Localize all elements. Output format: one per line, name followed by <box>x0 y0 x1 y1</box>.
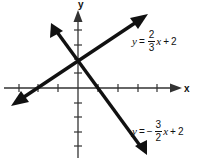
equation2-constant: 2 <box>178 127 184 137</box>
equation-label-line1: y = 2 3 x + 2 <box>132 30 177 53</box>
y-axis <box>74 10 83 158</box>
equation-label-line2: y = − 3 2 x + 2 <box>132 120 183 143</box>
x-axis-label: x <box>184 84 190 94</box>
equation2-operator: + <box>168 127 178 137</box>
equation1-fraction: 2 3 <box>148 30 156 53</box>
equation1-numerator: 2 <box>148 30 156 41</box>
equation1-equals: = <box>137 37 147 47</box>
equation1-denominator: 3 <box>148 42 156 53</box>
equation2-equals: = <box>137 127 147 137</box>
equation1-operator: + <box>161 37 171 47</box>
equation1-constant: 2 <box>171 37 177 47</box>
equation2-fraction: 3 2 <box>155 120 163 143</box>
graph-figure: y x y = 2 3 x + 2 y = − 3 2 x + 2 <box>0 0 207 162</box>
y-axis-label: y <box>78 0 84 10</box>
equation2-numerator: 3 <box>155 120 163 131</box>
equation2-sign: − <box>147 127 154 137</box>
equation2-denominator: 2 <box>155 132 163 143</box>
